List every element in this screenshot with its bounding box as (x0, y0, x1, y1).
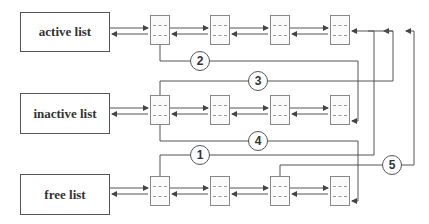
lru-list-diagram: active list inactive list free list 2 3 … (0, 0, 429, 224)
transition-1-marker: 1 (190, 145, 210, 165)
active-node-2 (210, 15, 230, 45)
transition-3-label: 3 (255, 74, 262, 88)
free-node-1 (150, 176, 170, 206)
inactive-list-label: inactive list (33, 106, 96, 122)
transition-3-marker: 3 (248, 71, 268, 91)
transition-4-label: 4 (255, 134, 262, 148)
transition-5-label: 5 (389, 158, 396, 172)
free-list-label: free list (44, 187, 85, 203)
transition-1-label: 1 (197, 148, 204, 162)
inactive-list-box: inactive list (20, 93, 110, 134)
inactive-node-1 (150, 95, 170, 125)
transition-5-marker: 5 (382, 155, 402, 175)
free-list-box: free list (20, 174, 110, 215)
transition-2-label: 2 (197, 54, 204, 68)
active-node-4 (330, 15, 350, 45)
active-list-box: active list (20, 12, 110, 52)
free-node-2 (210, 176, 230, 206)
transition-2-marker: 2 (190, 51, 210, 71)
inactive-node-3 (270, 95, 290, 125)
inactive-node-2 (210, 95, 230, 125)
active-node-1 (150, 15, 170, 45)
active-node-3 (270, 15, 290, 45)
free-node-4 (330, 176, 350, 206)
active-list-label: active list (39, 24, 91, 40)
free-node-3 (270, 176, 290, 206)
inactive-node-4 (330, 95, 350, 125)
transition-4-marker: 4 (248, 131, 268, 151)
